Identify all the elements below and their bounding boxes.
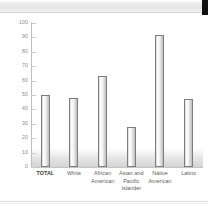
y-axis-tick-label: 30 bbox=[22, 121, 28, 126]
x-axis-line bbox=[31, 167, 203, 168]
x-axis-label-native-american: Native American bbox=[146, 170, 175, 185]
y-axis-tick-label: 80 bbox=[22, 49, 28, 54]
y-axis-tick-label: 50 bbox=[22, 92, 28, 97]
y-axis-tick-label: 70 bbox=[22, 64, 28, 69]
page-bottom-rule-secondary bbox=[0, 203, 208, 204]
chart-page: 0102030405060708090100 TOTALWhiteAfrican… bbox=[0, 0, 208, 207]
bar[interactable] bbox=[184, 99, 193, 167]
x-axis-label-asian-and-pacific-islander: Asian and Pacific Islander bbox=[117, 170, 146, 193]
plot-area: 0102030405060708090100 bbox=[31, 23, 203, 167]
bar-slot bbox=[117, 23, 146, 167]
bar[interactable] bbox=[98, 76, 107, 167]
bar-slot bbox=[174, 23, 203, 167]
bar-slot bbox=[88, 23, 117, 167]
x-axis-label-african-american: African American bbox=[88, 170, 117, 185]
y-axis-tick-label: 100 bbox=[19, 20, 28, 25]
bar-slot bbox=[146, 23, 175, 167]
bar-slot bbox=[60, 23, 89, 167]
y-axis-tick-label: 60 bbox=[22, 78, 28, 83]
bar[interactable] bbox=[155, 35, 164, 167]
bar-chart: 0102030405060708090100 TOTALWhiteAfrican… bbox=[0, 15, 208, 201]
page-corner-marker bbox=[202, 0, 208, 15]
bar[interactable] bbox=[69, 98, 78, 167]
page-bottom-rule bbox=[0, 201, 208, 202]
y-axis-tick-label: 0 bbox=[25, 164, 28, 169]
bar[interactable] bbox=[41, 95, 50, 167]
header-strip-divider bbox=[0, 12, 208, 13]
y-axis-tick-label: 10 bbox=[22, 150, 28, 155]
bar-slot bbox=[31, 23, 60, 167]
x-axis-label-total: TOTAL bbox=[31, 170, 60, 178]
x-axis-label-latino: Latino bbox=[174, 170, 203, 178]
y-axis-tick-label: 20 bbox=[22, 136, 28, 141]
y-axis-tick-label: 40 bbox=[22, 107, 28, 112]
bar[interactable] bbox=[127, 127, 136, 167]
y-axis-tick-label: 90 bbox=[22, 35, 28, 40]
x-axis-label-white: White bbox=[60, 170, 89, 178]
y-axis-tick: 0 bbox=[31, 167, 36, 168]
